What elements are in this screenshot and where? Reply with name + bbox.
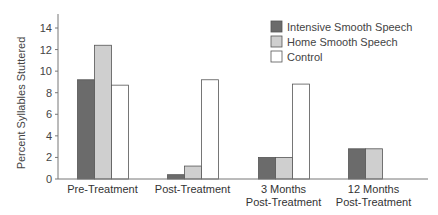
y-tick-label: 8 bbox=[46, 87, 52, 99]
legend-item: Control bbox=[271, 51, 322, 63]
bar bbox=[366, 149, 383, 179]
bar bbox=[202, 80, 219, 179]
y-tick-label: 4 bbox=[46, 130, 52, 142]
x-category-label: Pre-Treatment bbox=[67, 183, 138, 195]
bar bbox=[349, 149, 366, 179]
legend-item: Home Smooth Speech bbox=[271, 36, 398, 48]
legend-swatch bbox=[271, 51, 282, 62]
legend-label: Control bbox=[287, 51, 322, 63]
y-axis-title: Percent Syllables Stuttered bbox=[15, 37, 27, 170]
legend-label: Intensive Smooth Speech bbox=[287, 21, 412, 33]
bar bbox=[78, 80, 95, 179]
x-category-label: Post-Treatment bbox=[246, 196, 321, 208]
y-tick-label: 6 bbox=[46, 108, 52, 120]
x-axis: Pre-TreatmentPost-Treatment3 MonthsPost-… bbox=[58, 179, 428, 208]
bar-group bbox=[78, 45, 129, 179]
bar-group bbox=[349, 149, 383, 179]
y-tick-label: 12 bbox=[40, 44, 52, 56]
legend: Intensive Smooth SpeechHome Smooth Speec… bbox=[271, 21, 412, 63]
bar bbox=[168, 175, 185, 179]
legend-swatch bbox=[271, 21, 282, 32]
bar bbox=[185, 166, 202, 179]
x-category-label: Post-Treatment bbox=[155, 183, 230, 195]
y-tick-label: 10 bbox=[40, 65, 52, 77]
x-category-label: Post-Treatment bbox=[336, 196, 411, 208]
y-axis: 02468101214 bbox=[40, 14, 58, 185]
x-category-label: 3 Months bbox=[261, 183, 307, 195]
bar bbox=[259, 157, 276, 179]
bar-group bbox=[259, 84, 310, 179]
bar bbox=[276, 157, 293, 179]
legend-label: Home Smooth Speech bbox=[287, 36, 398, 48]
x-category-label: 12 Months bbox=[348, 183, 400, 195]
bar bbox=[112, 85, 129, 179]
legend-item: Intensive Smooth Speech bbox=[271, 21, 412, 33]
bar-group bbox=[168, 80, 219, 179]
legend-swatch bbox=[271, 36, 282, 47]
y-tick-label: 0 bbox=[46, 173, 52, 185]
y-tick-label: 14 bbox=[40, 22, 52, 34]
bar-chart: 02468101214 Pre-TreatmentPost-Treatment3… bbox=[0, 0, 438, 215]
bar bbox=[95, 45, 112, 179]
y-tick-label: 2 bbox=[46, 151, 52, 163]
bar bbox=[293, 84, 310, 179]
bars bbox=[78, 45, 383, 179]
